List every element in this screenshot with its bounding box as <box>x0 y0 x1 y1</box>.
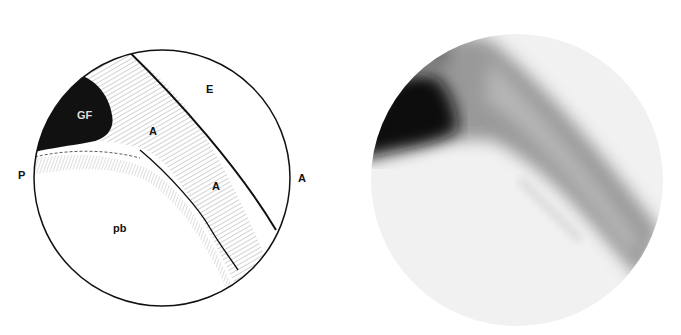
label-pb: pb <box>113 223 126 234</box>
drawing-figure <box>0 0 340 335</box>
label-a-middle: A <box>212 181 220 192</box>
arthroscopic-photo-panel <box>340 0 681 335</box>
label-gf: GF <box>77 110 92 121</box>
label-a-right: A <box>298 173 306 184</box>
label-a-upper: A <box>149 126 157 137</box>
arthroscopic-photo <box>340 0 681 335</box>
label-e: E <box>206 84 213 95</box>
label-p: P <box>18 170 25 181</box>
anatomical-drawing-panel: E GF A A A P pb <box>0 0 340 335</box>
